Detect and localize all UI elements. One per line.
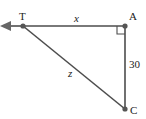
label-x: x bbox=[73, 12, 79, 24]
label-a: A bbox=[129, 10, 137, 22]
point-t bbox=[20, 23, 25, 28]
label-c: C bbox=[130, 104, 137, 116]
triangle-diagram: T A C x 30 z bbox=[0, 0, 146, 119]
label-t: T bbox=[19, 10, 26, 22]
label-30: 30 bbox=[129, 58, 141, 70]
arrow-left-icon bbox=[0, 21, 11, 31]
segment-tc bbox=[23, 26, 125, 109]
label-z: z bbox=[67, 67, 73, 79]
point-c bbox=[122, 106, 127, 111]
point-a bbox=[122, 23, 127, 28]
